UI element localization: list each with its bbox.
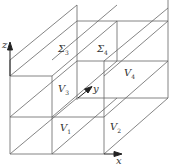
region-label-v1: V1 — [60, 123, 71, 135]
interface-label-sigma4: Σ4 — [97, 44, 108, 56]
x-axis-label: x — [116, 156, 122, 165]
interface-label-sigma3: Σ3 — [58, 44, 69, 56]
domain-diagram: z x y V1 V2 V3 V4 Σ3 Σ4 — [0, 0, 171, 165]
y-axis-label: y — [93, 84, 99, 94]
region-label-v3: V3 — [58, 84, 69, 96]
z-axis-label: z — [2, 40, 7, 50]
region-label-v4: V4 — [124, 68, 135, 80]
diagram-lines — [0, 0, 171, 165]
region-label-v2: V2 — [110, 122, 121, 134]
